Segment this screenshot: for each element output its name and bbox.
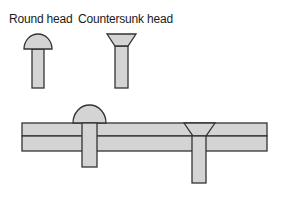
countersunk-rivet-head [107, 34, 136, 46]
lower-plate [22, 136, 267, 151]
round-rivet-head [24, 34, 52, 49]
countersunk-head-rivet [107, 34, 136, 88]
rivet-diagram [0, 0, 283, 197]
countersunk-rivet-shank [115, 46, 128, 88]
round-rivet-shank [32, 49, 44, 88]
installed-round-shank [82, 123, 97, 167]
round-head-rivet [24, 34, 52, 88]
joined-plates [22, 123, 267, 151]
upper-plate [22, 123, 267, 136]
installed-round-head [73, 105, 106, 123]
installed-countersunk-shank [192, 136, 206, 183]
